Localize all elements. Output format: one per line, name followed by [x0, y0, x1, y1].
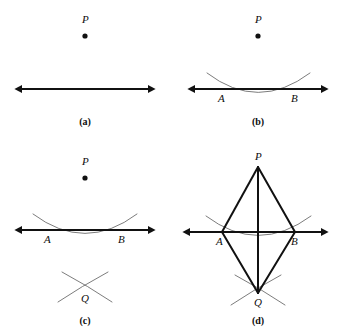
point-label-p-panel-d: P — [255, 151, 262, 162]
point-label-p-panel-b: P — [255, 14, 262, 25]
point-label-b-panel-b: B — [291, 93, 298, 104]
panel-caption-c: (c) — [71, 316, 99, 326]
panel-caption-a: (a) — [71, 117, 99, 127]
c-point-p-dot — [82, 175, 87, 180]
point-label-b-panel-d: B — [291, 236, 298, 247]
point-label-b-panel-c: B — [118, 234, 125, 245]
point-label-q-panel-d: Q — [254, 297, 262, 308]
point-label-a-panel-c: A — [44, 234, 51, 245]
point-label-q-panel-c: Q — [81, 293, 89, 304]
construction-canvas — [0, 0, 337, 336]
d-segment-PA — [222, 167, 258, 232]
d-segment-PB — [258, 167, 295, 232]
panel-caption-b: (b) — [244, 117, 272, 127]
a-point-p-dot — [82, 33, 87, 38]
panel-a — [22, 33, 148, 89]
panel-c — [22, 175, 148, 302]
point-label-a-panel-d: A — [216, 236, 223, 247]
panel-caption-d: (d) — [244, 316, 272, 326]
point-label-a-panel-b: A — [218, 93, 225, 104]
d-segment-AQ — [222, 232, 258, 293]
point-label-p-panel-c: P — [82, 156, 89, 167]
panel-d — [190, 167, 321, 305]
d-segment-BQ — [258, 232, 295, 293]
point-label-p-panel-a: P — [82, 14, 89, 25]
panel-b — [195, 33, 321, 92]
geometry-figure: P(a)PAB(b)PABQ(c)PABQ(d) — [0, 0, 337, 336]
b-point-p-dot — [255, 33, 260, 38]
